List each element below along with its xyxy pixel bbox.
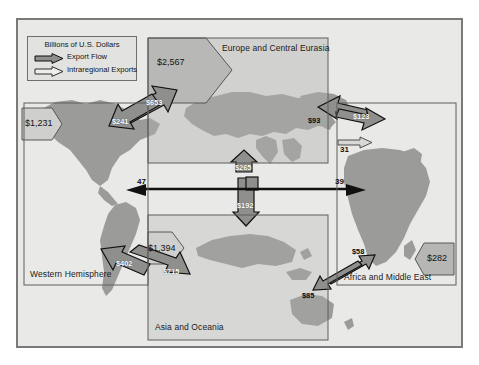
outline-arrow-icon: [34, 66, 64, 77]
value-flow-wh-to-afme: 47: [137, 177, 146, 186]
central-america-landmass: [98, 186, 118, 206]
new-zealand-landmass: [344, 318, 354, 330]
trade-flow-figure: Billions of U.S. Dollars Export Flow Int…: [0, 0, 479, 365]
label-africa-middle-east: Africa and Middle East: [344, 272, 431, 282]
value-flow-asia-to-wh: $715: [163, 267, 179, 276]
value-africa-middle-east-intraregional: $282: [427, 253, 447, 263]
value-flow-wh-to-asia: $402: [116, 259, 132, 268]
label-western-hemisphere: Western Hemisphere: [30, 269, 111, 279]
legend-title: Billions of U.S. Dollars: [28, 40, 136, 49]
value-europe-intraregional: $2,567: [157, 57, 185, 67]
madagascar-landmass: [404, 240, 416, 260]
value-flow-afme-to-asia: $58: [352, 247, 364, 256]
solid-arrow-icon: [34, 53, 64, 64]
legend-label-export-flow: Export Flow: [67, 52, 107, 61]
value-flow-afme-to-eu: $93: [308, 116, 320, 125]
value-flow-eu-to-afme: $123: [353, 112, 369, 121]
value-flow-asia-to-afme: $85: [302, 291, 314, 300]
value-flow-eu-to-asia: $192: [237, 201, 253, 210]
label-asia-oceania: Asia and Oceania: [155, 322, 224, 332]
value-asia-intraregional: $1,394: [148, 243, 176, 253]
value-flow-afme-to-wh: 39: [335, 177, 344, 186]
label-europe-central-eurasia: Europe and Central Eurasia: [222, 43, 330, 53]
value-western-hemisphere-intraregional: $1,231: [25, 118, 53, 128]
value-flow-wh-to-eu: $653: [146, 98, 162, 107]
legend: Billions of U.S. Dollars Export Flow Int…: [27, 36, 137, 81]
value-flow-afme-intraregional-small: 31: [340, 145, 349, 154]
legend-label-intraregional: Intraregional Exports: [67, 65, 137, 74]
value-flow-eu-to-wh: $241: [112, 117, 128, 126]
value-flow-asia-to-eu: $265: [235, 163, 251, 172]
